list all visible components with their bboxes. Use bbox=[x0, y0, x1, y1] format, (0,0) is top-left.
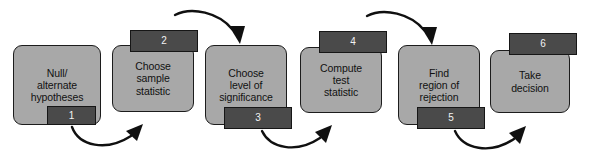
step-label-2: Choose sample statistic bbox=[132, 60, 174, 97]
step-number-1: 1 bbox=[69, 111, 75, 121]
step-label-1: Null/ alternate hypotheses bbox=[28, 67, 87, 104]
step-node-6[interactable]: Take decision bbox=[490, 50, 570, 113]
step-tab-4[interactable]: 4 bbox=[319, 31, 387, 53]
step-label-3: Choose level of significance bbox=[216, 67, 276, 104]
step-tab-3[interactable]: 3 bbox=[224, 107, 292, 129]
step-number-3: 3 bbox=[255, 113, 261, 123]
step-number-4: 4 bbox=[350, 37, 356, 47]
flowchart-diagram: Null/ alternate hypotheses 1 Choose samp… bbox=[0, 0, 590, 162]
step-number-6: 6 bbox=[540, 39, 546, 49]
step-node-4[interactable]: Compute test statistic bbox=[300, 47, 382, 113]
step-node-2[interactable]: Choose sample statistic bbox=[112, 45, 194, 112]
connector-arrow-1-to-2 bbox=[72, 124, 143, 145]
step-tab-1[interactable]: 1 bbox=[47, 106, 96, 125]
step-number-5: 5 bbox=[448, 113, 454, 123]
step-label-5: Find region of rejection bbox=[416, 67, 462, 104]
connector-arrow-5-to-6 bbox=[455, 126, 526, 148]
step-number-2: 2 bbox=[161, 36, 167, 46]
step-tab-2[interactable]: 2 bbox=[130, 30, 198, 52]
step-label-6: Take decision bbox=[508, 69, 552, 93]
step-tab-5[interactable]: 5 bbox=[417, 107, 485, 129]
step-label-4: Compute test statistic bbox=[317, 62, 365, 99]
step-tab-6[interactable]: 6 bbox=[509, 33, 577, 55]
